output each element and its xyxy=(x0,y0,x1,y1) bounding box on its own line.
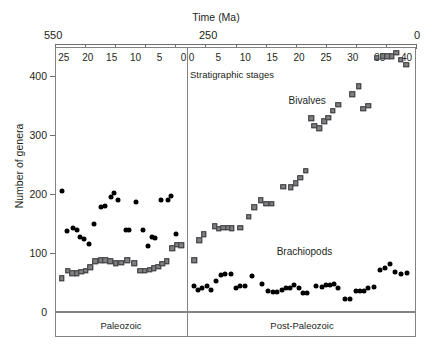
data-point-bivalves xyxy=(330,108,336,114)
time-axis-label-0: 0 xyxy=(414,29,420,41)
data-point-brachiopods xyxy=(65,228,70,233)
data-point-bivalves xyxy=(403,62,409,68)
data-point-bivalves xyxy=(131,260,137,266)
data-point-bivalves xyxy=(317,126,323,132)
data-point-bivalves xyxy=(164,259,170,265)
x-tick-label-paleozoic: 5 xyxy=(157,52,163,63)
data-point-brachiopods xyxy=(214,279,219,284)
data-point-bivalves xyxy=(336,102,342,108)
y-axis-title: Number of genera xyxy=(13,106,25,226)
data-point-brachiopods xyxy=(209,287,214,292)
data-point-brachiopods xyxy=(382,266,387,271)
data-point-bivalves xyxy=(325,115,331,121)
y-tick-label: 400 xyxy=(7,70,47,82)
data-point-brachiopods xyxy=(347,297,352,302)
data-point-brachiopods xyxy=(59,189,64,194)
data-point-brachiopods xyxy=(336,286,341,291)
period-label-paleozoic: Paleozoic xyxy=(55,320,187,331)
data-point-bivalves xyxy=(303,168,309,174)
data-point-brachiopods xyxy=(133,200,138,205)
data-point-brachiopods xyxy=(102,204,107,209)
data-point-bivalves xyxy=(59,276,65,282)
y-tick-label: 0 xyxy=(7,306,47,318)
data-point-brachiopods xyxy=(332,281,337,286)
data-point-brachiopods xyxy=(371,285,376,290)
data-point-brachiopods xyxy=(313,284,318,289)
data-point-bivalves xyxy=(366,103,372,109)
x-tick-label-post-paleozoic: 20 xyxy=(293,52,304,63)
series-label: Bivalves xyxy=(289,95,326,106)
plot-area xyxy=(55,47,416,312)
data-point-bivalves xyxy=(269,201,275,207)
data-point-brachiopods xyxy=(173,231,178,236)
data-point-bivalves xyxy=(293,180,299,186)
data-point-bivalves xyxy=(297,175,303,181)
data-point-brachiopods xyxy=(153,235,158,240)
data-point-bivalves xyxy=(119,260,125,266)
data-point-brachiopods xyxy=(115,198,120,203)
data-point-bivalves xyxy=(252,204,258,210)
data-point-brachiopods xyxy=(74,227,79,232)
data-point-bivalves xyxy=(374,55,380,61)
data-point-bivalves xyxy=(87,264,93,270)
data-point-brachiopods xyxy=(250,274,255,279)
data-point-brachiopods xyxy=(387,261,392,266)
top-axis-title: Time (Ma) xyxy=(0,12,432,23)
y-tick-label: 100 xyxy=(7,247,47,259)
period-label-post-paleozoic: Post-Paleozoic xyxy=(188,320,416,331)
data-point-brachiopods xyxy=(223,272,228,277)
data-point-brachiopods xyxy=(168,193,173,198)
data-point-brachiopods xyxy=(91,221,96,226)
data-point-brachiopods xyxy=(126,227,131,232)
x-tick-label-post-paleozoic: 25 xyxy=(320,52,331,63)
data-point-bivalves xyxy=(125,257,131,263)
time-axis-tick xyxy=(416,44,417,49)
data-point-bivalves xyxy=(281,184,287,190)
x-tick-label-paleozoic: 10 xyxy=(130,52,141,63)
data-point-bivalves xyxy=(356,84,362,90)
data-point-bivalves xyxy=(246,214,252,220)
data-point-brachiopods xyxy=(393,269,398,274)
x-tick-label-paleozoic: 20 xyxy=(82,52,93,63)
x-tick-label-post-paleozoic: 5 xyxy=(216,52,222,63)
data-point-brachiopods xyxy=(228,272,233,277)
data-point-bivalves xyxy=(201,232,207,238)
data-point-brachiopods xyxy=(146,244,151,249)
data-point-bivalves xyxy=(394,50,400,56)
data-point-brachiopods xyxy=(398,272,403,277)
data-point-brachiopods xyxy=(366,286,371,291)
data-point-bivalves xyxy=(309,116,315,122)
data-point-brachiopods xyxy=(159,198,164,203)
data-point-bivalves xyxy=(350,91,356,97)
panel-divider xyxy=(187,47,188,337)
data-point-brachiopods xyxy=(259,282,264,287)
time-axis-label-550: 550 xyxy=(44,29,62,41)
data-point-brachiopods xyxy=(111,191,116,196)
series-label: Brachiopods xyxy=(277,246,333,257)
data-point-brachiopods xyxy=(86,241,91,246)
data-point-bivalves xyxy=(229,226,235,232)
data-point-bivalves xyxy=(238,225,244,231)
y-tick-label: 300 xyxy=(7,129,47,141)
data-point-bivalves xyxy=(196,237,202,243)
x-tick-label-post-paleozoic: 30 xyxy=(347,52,358,63)
x-axis-caption: Stratigraphic stages xyxy=(190,69,274,80)
x-tick-label-paleozoic: 25 xyxy=(58,52,69,63)
x-tick-label-post-paleozoic: 15 xyxy=(267,52,278,63)
data-point-brachiopods xyxy=(404,271,409,276)
x-tick-label-paleozoic: 15 xyxy=(106,52,117,63)
x-tick-label-post-paleozoic: 0 xyxy=(189,52,195,63)
data-point-bivalves xyxy=(178,243,184,249)
x-tick-label-post-paleozoic: 10 xyxy=(240,52,251,63)
x-tick-label-paleozoic: 0 xyxy=(181,52,187,63)
data-point-bivalves xyxy=(191,257,197,263)
data-point-brachiopods xyxy=(140,227,145,232)
data-point-brachiopods xyxy=(305,291,310,296)
chart-figure: Time (Ma) 550 250 0 Number of genera 010… xyxy=(0,0,432,357)
data-point-brachiopods xyxy=(242,284,247,289)
data-point-brachiopods xyxy=(82,236,87,241)
time-axis-label-250: 250 xyxy=(199,29,217,41)
y-tick-label: 200 xyxy=(7,188,47,200)
data-point-bivalves xyxy=(113,260,119,266)
